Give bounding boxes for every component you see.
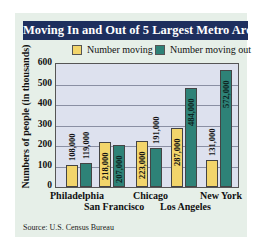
legend-swatch-in bbox=[72, 45, 82, 55]
y-tick-label: 300 bbox=[30, 119, 52, 129]
legend-label-out: Number moving out bbox=[170, 44, 251, 56]
gridline bbox=[56, 85, 238, 86]
chart-title: Moving In and Out of 5 Largest Metro Are… bbox=[23, 21, 248, 40]
bar-value-label: 207,000 bbox=[114, 155, 124, 183]
x-category-label: San Francisco bbox=[84, 201, 144, 212]
bar-moving-in bbox=[66, 165, 78, 187]
bar-value-label: 191,000 bbox=[151, 116, 161, 144]
plot-area: 108,000119,000218,000207,000223,000191,0… bbox=[55, 63, 239, 188]
y-tick-label: 400 bbox=[30, 98, 52, 108]
legend-item-moving-out: Number moving out bbox=[155, 44, 251, 56]
x-category-label: Los Angeles bbox=[160, 201, 211, 212]
x-category-label: New York bbox=[200, 190, 242, 201]
bar-moving-out bbox=[150, 148, 162, 187]
bar-value-label: 572,000 bbox=[221, 80, 231, 108]
bar-value-label: 223,000 bbox=[137, 152, 147, 180]
bar-value-label: 131,000 bbox=[207, 129, 217, 157]
y-tick-label: 0 bbox=[30, 180, 52, 190]
bar-value-label: 119,000 bbox=[81, 131, 91, 158]
legend-item-moving-in: Number moving in bbox=[72, 44, 163, 56]
legend-label-in: Number moving in bbox=[87, 44, 163, 56]
bar-value-label: 287,000 bbox=[172, 139, 182, 167]
gridline bbox=[56, 105, 238, 106]
bar-moving-in bbox=[206, 160, 218, 187]
x-category-label: Chicago bbox=[133, 190, 168, 201]
bar-value-label: 108,000 bbox=[67, 133, 77, 161]
legend-swatch-out bbox=[155, 45, 165, 55]
bar-value-label: 484,000 bbox=[186, 98, 196, 126]
bar-value-label: 218,000 bbox=[100, 153, 110, 181]
x-category-label: Philadelphia bbox=[50, 190, 104, 201]
source-note: Source: U.S. Census Bureau bbox=[23, 223, 114, 232]
bar-moving-out bbox=[80, 163, 92, 187]
y-axis-label: Numbers of people (in thousands) bbox=[20, 59, 31, 189]
y-tick-label: 200 bbox=[30, 139, 52, 149]
y-tick-label: 500 bbox=[30, 78, 52, 88]
gridline bbox=[56, 126, 238, 127]
y-tick-label: 600 bbox=[30, 57, 52, 67]
y-tick-label: 100 bbox=[30, 160, 52, 170]
